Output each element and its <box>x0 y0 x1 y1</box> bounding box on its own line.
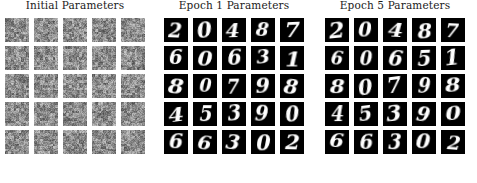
digit-value: 0 <box>284 102 301 126</box>
noise-canvas <box>92 18 116 42</box>
digit-glyph-svg: 8 <box>412 18 436 42</box>
digit-value: 6 <box>387 46 404 70</box>
sample-tile: 2 <box>325 18 349 42</box>
noise-canvas <box>121 102 145 126</box>
digit-value: 5 <box>417 46 432 70</box>
digit-value: 6 <box>329 130 345 152</box>
digit-glyph-svg: 0 <box>354 18 378 42</box>
noise-canvas <box>121 130 145 154</box>
sample-tile: 6 <box>164 130 188 154</box>
noise-canvas <box>5 46 29 70</box>
digit-value: 3 <box>226 102 242 126</box>
digit-glyph-svg: 8 <box>280 74 304 98</box>
noise-canvas <box>34 102 58 126</box>
noise-canvas <box>63 46 87 70</box>
digit-value: 0 <box>256 130 271 154</box>
digit-value: 7 <box>385 74 403 98</box>
digit-glyph-svg: 6 <box>222 46 246 70</box>
digit-value: 6 <box>169 130 183 153</box>
digit-glyph-svg: 9 <box>412 102 436 126</box>
digit-glyph-svg: 3 <box>222 102 246 126</box>
digit-glyph-svg: 8 <box>164 74 188 98</box>
digit-glyph-svg: 4 <box>164 102 188 126</box>
sample-tile <box>5 46 29 70</box>
sample-tile: 7 <box>383 74 407 98</box>
digit-glyph-svg: 8 <box>251 18 275 42</box>
sample-tile: 0 <box>441 102 465 126</box>
digit-glyph-svg: 0 <box>354 46 378 70</box>
sample-tile: 0 <box>193 46 217 70</box>
digit-glyph-svg: 6 <box>164 46 188 70</box>
digit-glyph-svg: 5 <box>412 46 436 70</box>
digit-glyph-svg: 0 <box>193 74 217 98</box>
panel-epoch-5-parameters: Epoch 5 Parameters 204876065180798453906… <box>325 0 465 154</box>
digit-glyph-svg: 0 <box>251 130 275 154</box>
samples-figure: Initial Parameters Epoch 1 Parameters 20… <box>0 0 477 183</box>
noise-canvas <box>34 130 58 154</box>
sample-tile: 0 <box>354 18 378 42</box>
digit-glyph-svg: 1 <box>441 46 465 70</box>
noise-canvas <box>92 46 116 70</box>
digit-glyph-svg: 4 <box>325 102 349 126</box>
digit-value: 3 <box>388 130 402 154</box>
sample-tile <box>63 102 87 126</box>
sample-tile: 8 <box>280 74 304 98</box>
digit-glyph-svg: 6 <box>193 130 217 154</box>
sample-tile <box>5 74 29 98</box>
sample-tile: 9 <box>412 102 436 126</box>
sample-tile: 4 <box>164 102 188 126</box>
panel-title: Epoch 1 Parameters <box>179 0 290 11</box>
digit-glyph-svg: 7 <box>222 74 246 98</box>
sample-tile: 0 <box>193 18 217 42</box>
sample-tile <box>34 46 58 70</box>
sample-tile: 3 <box>251 46 275 70</box>
sample-tile: 2 <box>164 18 188 42</box>
noise-canvas <box>63 18 87 42</box>
sample-tile <box>121 130 145 154</box>
sample-tile: 0 <box>193 74 217 98</box>
digit-glyph-svg: 5 <box>354 102 378 126</box>
sample-tile: 6 <box>325 130 349 154</box>
digit-value: 0 <box>358 18 373 41</box>
digit-glyph-svg: 6 <box>383 46 407 70</box>
sample-tile: 6 <box>164 46 188 70</box>
digit-value: 5 <box>200 102 213 126</box>
noise-canvas <box>34 18 58 42</box>
sample-tile: 7 <box>222 74 246 98</box>
digit-glyph-svg: 0 <box>412 130 436 154</box>
digit-value: 8 <box>329 75 345 98</box>
digit-glyph-svg: 0 <box>193 18 217 42</box>
sample-tile: 6 <box>354 130 378 154</box>
sample-tile: 6 <box>193 130 217 154</box>
digit-glyph-svg: 2 <box>280 130 304 154</box>
sample-tile: 9 <box>412 74 436 98</box>
sample-tile <box>34 18 58 42</box>
digit-glyph-svg: 2 <box>325 18 349 42</box>
noise-canvas <box>92 74 116 98</box>
digit-value: 3 <box>225 130 242 154</box>
noise-canvas <box>5 18 29 42</box>
sample-tile: 3 <box>222 130 246 154</box>
digit-value: 3 <box>255 46 271 68</box>
sample-tile: 0 <box>354 46 378 70</box>
sample-tile: 2 <box>280 130 304 154</box>
sample-tile <box>121 46 145 70</box>
sample-tile: 7 <box>280 18 304 42</box>
sample-tile <box>92 102 116 126</box>
digit-glyph-svg: 4 <box>222 18 246 42</box>
noise-canvas <box>34 46 58 70</box>
digit-glyph-svg: 7 <box>383 74 407 98</box>
sample-tile: 2 <box>441 130 465 154</box>
digit-value: 0 <box>197 46 213 70</box>
digit-value: 4 <box>388 19 404 42</box>
sample-tile <box>121 102 145 126</box>
digit-value: 2 <box>446 131 462 154</box>
digit-value: 6 <box>330 46 344 70</box>
sample-tile: 0 <box>354 74 378 98</box>
digit-glyph-svg: 6 <box>164 130 188 154</box>
panel-title: Initial Parameters <box>26 0 125 11</box>
sample-tile: 6 <box>325 46 349 70</box>
digit-value: 6 <box>227 46 243 70</box>
sample-tile: 1 <box>280 46 304 70</box>
sample-tile: 1 <box>441 46 465 70</box>
